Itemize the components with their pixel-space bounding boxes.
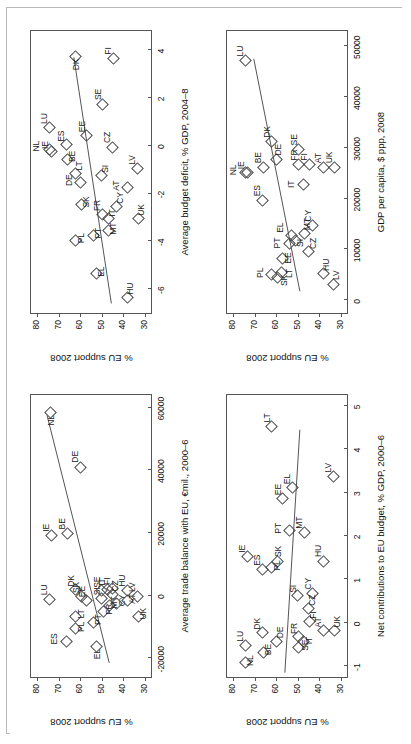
data-point-label: DE — [276, 627, 285, 639]
data-point-label: CY — [115, 192, 124, 204]
data-point-label: CY — [303, 578, 312, 590]
panel-gdp-per-capita: % EU support 2008 LUDKNLIEBEDEESFRSEITFI… — [206, 8, 402, 372]
y-axis-tick — [297, 313, 298, 317]
data-point-label: SE — [93, 89, 102, 100]
x-axis-tick — [148, 97, 152, 98]
y-axis-tick — [144, 677, 145, 681]
plot-area: DKFISELUEENLIEESBECZDELTSISKATLVCYPLPTFR… — [30, 30, 152, 314]
x-axis-tick-label: 4 — [156, 49, 166, 54]
x-axis-title: Average budget deficit, % GDP, 2004–8 — [179, 30, 190, 314]
data-point-label: HU — [322, 259, 331, 271]
x-axis-tick — [148, 288, 152, 289]
data-point-label: PL — [272, 560, 281, 570]
x-axis-tick — [148, 532, 152, 533]
regression-line — [31, 31, 151, 313]
x-axis-tick — [344, 96, 348, 97]
y-axis-title: % EU support 2008 — [226, 352, 348, 366]
x-axis-tick — [344, 665, 348, 666]
y-axis-tick-label: 60 — [270, 684, 280, 700]
y-axis-tick-label: 30 — [334, 320, 344, 336]
data-point-label: IT — [305, 637, 314, 644]
data-point-label: CZ — [308, 595, 317, 606]
y-axis-title: % EU support 2008 — [30, 352, 152, 366]
data-point-label: LV — [332, 270, 341, 280]
data-point-label: EL — [93, 649, 102, 659]
panel-trade-balance: % EU support 2008 NLDEIEBELUESDKPLLTSKEE… — [10, 372, 206, 736]
data-point-label: MT — [303, 218, 312, 230]
data-point-label: FI — [104, 47, 113, 54]
x-axis-tick-label: 30000 — [352, 137, 362, 161]
x-axis-tick-label: 50000 — [352, 35, 362, 59]
x-axis-tick-label: -2 — [156, 191, 166, 199]
data-point-label: ES — [50, 633, 59, 644]
plot-inner: LTLVELEEPTMTIEESSKPLHUSICYCZFILUNLDKBEDE… — [227, 395, 347, 677]
data-point-label: FR — [289, 623, 298, 634]
data-point-label: EE — [77, 121, 86, 132]
y-axis-tick — [340, 677, 341, 681]
data-point-label: DE — [274, 144, 283, 156]
x-axis-tick-label: 0 — [156, 144, 166, 149]
x-axis-tick-label: 0 — [156, 594, 166, 599]
data-point-label: SK — [82, 196, 91, 207]
y-axis-tick-label: 80 — [227, 684, 237, 700]
data-point-label: LU — [236, 46, 245, 57]
y-axis-tick-label: 40 — [117, 684, 127, 700]
plot-area: LTLVELEEPTMTIEESSKPLHUSICYCZFILUNLDKBEDE… — [226, 394, 348, 678]
data-point-label: NL — [47, 415, 56, 426]
y-axis-tick — [37, 313, 38, 317]
y-axis-title: % EU support 2008 — [30, 716, 152, 730]
data-point-label: UK — [325, 152, 334, 164]
y-axis-title: % EU support 2008 — [226, 716, 348, 730]
x-axis-tick — [148, 595, 152, 596]
x-axis-tick-label: 2 — [352, 535, 362, 540]
data-point-label: AT — [314, 617, 323, 627]
y-axis-tick — [80, 677, 81, 681]
y-axis-tick-label: 70 — [52, 320, 62, 336]
x-axis-tick-label: 60000 — [156, 397, 166, 421]
plot-area: LUDKNLIEBEDEESFRSEITFIATUKCYPTELSIMTCZEE… — [226, 30, 348, 314]
x-axis-tick — [344, 147, 348, 148]
x-axis-tick-label: 40000 — [156, 459, 166, 483]
data-point-label: SI — [295, 239, 304, 247]
data-point-label: UK — [139, 608, 148, 620]
data-point-label: MT — [109, 223, 118, 235]
x-axis-tick-label: 4 — [352, 448, 362, 453]
data-point-label: LT — [262, 413, 271, 422]
y-axis-tick-label: 50 — [95, 320, 105, 336]
data-point-label: IT — [108, 209, 117, 216]
x-axis-tick — [344, 45, 348, 46]
x-axis-tick — [344, 492, 348, 493]
data-point-label: IT — [287, 181, 296, 188]
data-point-label: EE — [283, 253, 292, 264]
y-axis-tick-label: 50 — [95, 684, 105, 700]
y-axis-title-text: % EU support 2008 — [245, 353, 327, 364]
x-axis-tick-label: 20000 — [352, 188, 362, 212]
x-axis-tick — [344, 448, 348, 449]
y-axis-tick — [319, 313, 320, 317]
x-axis-tick-label: -1 — [352, 663, 362, 671]
x-axis-tick-label: 10000 — [352, 239, 362, 263]
data-point-label: LV — [128, 583, 137, 593]
data-point-label: EL — [276, 223, 285, 233]
x-axis-tick — [344, 249, 348, 250]
y-axis-tick — [254, 677, 255, 681]
y-axis-tick-label: 60 — [74, 320, 84, 336]
y-axis-tick — [276, 313, 277, 317]
y-axis-tick — [297, 677, 298, 681]
y-axis-tick-label: 50 — [291, 684, 301, 700]
panel-budget-deficit: % EU support 2008 DKFISELUEENLIEESBECZDE… — [10, 8, 206, 372]
data-point-label: DK — [71, 59, 80, 71]
data-point-label: UK — [333, 616, 342, 628]
y-axis-tick — [101, 677, 102, 681]
x-axis-tick — [148, 407, 152, 408]
data-point-label: LU — [40, 113, 49, 124]
y-axis-tick — [37, 677, 38, 681]
y-axis-tick-label: 70 — [248, 320, 258, 336]
y-axis-tick-label: 60 — [270, 320, 280, 336]
plot-area: NLDEIEBELUESDKPLLTSKEEPTELSISEFRITMTCZFI… — [30, 394, 152, 678]
data-point-label: IE — [236, 161, 245, 169]
data-point-label: BE — [264, 644, 273, 655]
x-axis-title: Net contributions to EU budget, % GDP, 2… — [375, 394, 386, 678]
y-axis-tick — [58, 313, 59, 317]
data-point-label: LT — [284, 269, 293, 278]
